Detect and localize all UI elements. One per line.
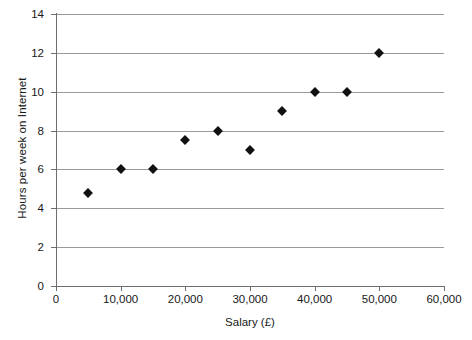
gridline bbox=[56, 92, 444, 93]
x-tick-mark bbox=[444, 286, 445, 291]
data-point bbox=[180, 135, 190, 145]
data-point bbox=[277, 106, 287, 116]
x-tick-label: 0 bbox=[21, 293, 91, 305]
y-tick-mark bbox=[51, 53, 57, 54]
data-point bbox=[342, 87, 352, 97]
y-tick-mark bbox=[51, 92, 57, 93]
gridline bbox=[56, 247, 444, 248]
x-tick-mark bbox=[185, 286, 186, 291]
x-tick-label: 40,000 bbox=[280, 293, 350, 305]
gridline bbox=[56, 208, 444, 209]
y-axis-title: Hours per week on Internet bbox=[16, 43, 28, 253]
x-tick-mark bbox=[250, 286, 251, 291]
x-tick-label: 10,000 bbox=[86, 293, 156, 305]
x-tick-label: 50,000 bbox=[344, 293, 414, 305]
scatter-chart: Hours per week on Internet 02468101214 0… bbox=[0, 0, 472, 340]
gridline bbox=[56, 169, 444, 170]
y-tick-label: 8 bbox=[10, 125, 44, 137]
data-point bbox=[148, 164, 158, 174]
y-tick-label: 12 bbox=[10, 47, 44, 59]
x-tick-mark bbox=[379, 286, 380, 291]
x-tick-label: 60,000 bbox=[409, 293, 472, 305]
x-axis-title: Salary (£) bbox=[56, 316, 444, 328]
x-tick-label: 20,000 bbox=[150, 293, 220, 305]
data-point bbox=[213, 126, 223, 136]
x-tick-label: 30,000 bbox=[215, 293, 285, 305]
y-tick-label: 2 bbox=[10, 241, 44, 253]
y-tick-mark bbox=[51, 169, 57, 170]
data-point bbox=[310, 87, 320, 97]
plot-area bbox=[56, 14, 444, 286]
y-tick-label: 10 bbox=[10, 86, 44, 98]
y-tick-mark bbox=[51, 247, 57, 248]
y-tick-label: 14 bbox=[10, 8, 44, 20]
y-tick-mark bbox=[51, 14, 57, 15]
data-point bbox=[374, 48, 384, 58]
gridline bbox=[56, 53, 444, 54]
x-tick-mark bbox=[56, 286, 57, 291]
data-point bbox=[245, 145, 255, 155]
y-tick-label: 0 bbox=[10, 280, 44, 292]
x-tick-mark bbox=[121, 286, 122, 291]
y-tick-label: 4 bbox=[10, 202, 44, 214]
y-tick-mark bbox=[51, 131, 57, 132]
y-tick-label: 6 bbox=[10, 163, 44, 175]
data-point bbox=[83, 188, 93, 198]
gridline bbox=[56, 131, 444, 132]
y-tick-mark bbox=[51, 208, 57, 209]
x-tick-mark bbox=[315, 286, 316, 291]
gridline bbox=[56, 14, 444, 15]
data-point bbox=[116, 164, 126, 174]
